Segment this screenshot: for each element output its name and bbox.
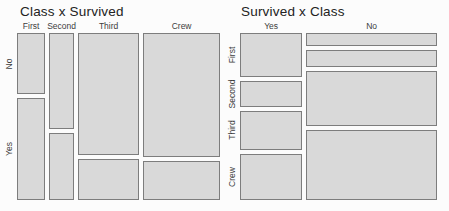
cell-second-no [49, 33, 74, 129]
mosaic-plots-canvas: Class x Survived Survived x Class FirstS… [0, 0, 449, 211]
cell-no-second [306, 50, 437, 67]
plot-title-survived-x-class: Survived x Class [241, 5, 345, 20]
cell-no-crew [306, 130, 437, 200]
col-label-yes: Yes [264, 21, 278, 31]
plot-title-class-x-survived: Class x Survived [20, 5, 124, 20]
cell-third-no [78, 33, 139, 155]
cell-crew-yes [143, 161, 220, 200]
row-label-no: No [4, 58, 14, 69]
row-label-first: First [227, 47, 237, 64]
col-label-second: Second [47, 21, 76, 31]
cell-no-third [306, 71, 437, 126]
cell-first-no [17, 33, 45, 94]
cell-crew-no [143, 33, 220, 157]
row-label-crew: Crew [227, 167, 237, 187]
cell-no-first [306, 33, 437, 46]
cell-yes-first [240, 33, 302, 77]
cell-third-yes [78, 159, 139, 200]
col-label-third: Third [99, 21, 118, 31]
row-label-yes: Yes [4, 142, 14, 156]
cell-yes-second [240, 81, 302, 107]
row-label-second: Second [227, 80, 237, 109]
col-label-no: No [366, 21, 377, 31]
cell-second-yes [49, 133, 74, 200]
cell-first-yes [17, 98, 45, 200]
col-label-crew: Crew [172, 21, 192, 31]
cell-yes-third [240, 111, 302, 150]
cell-yes-crew [240, 154, 302, 200]
col-label-first: First [23, 21, 40, 31]
row-label-third: Third [227, 121, 237, 140]
